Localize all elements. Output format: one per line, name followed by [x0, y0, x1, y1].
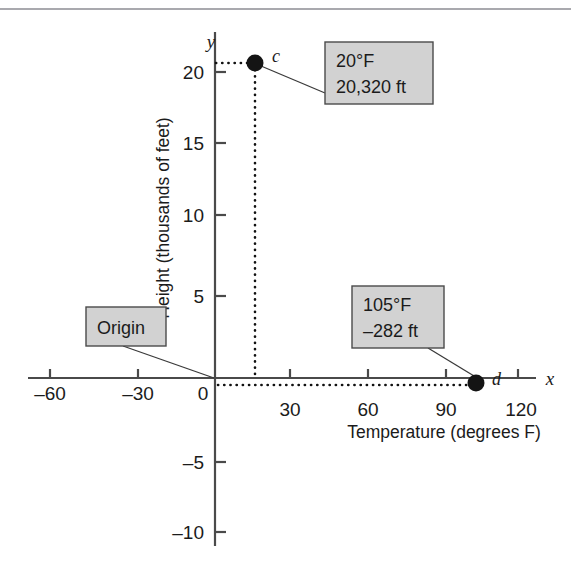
callout-d[interactable]: 105°F –282 ft [352, 286, 444, 348]
y-axis-letter: y [205, 31, 216, 52]
y-tick-label-neg10: –10 [172, 522, 204, 543]
callout-d-line1: 105°F [363, 295, 411, 315]
callout-origin-label: Origin [97, 318, 145, 338]
y-tick-label-5: 5 [193, 286, 204, 307]
callout-d-line2: –282 ft [363, 321, 418, 341]
leader-line-callout-c [261, 66, 325, 93]
x-tick-label-90: 90 [435, 399, 456, 420]
x-tick-label-neg30: –30 [122, 383, 154, 404]
data-point-d-label: d [492, 369, 502, 389]
callout-c-line2: 20,320 ft [336, 77, 406, 97]
callout-c-line1: 20°F [336, 51, 374, 71]
y-tick-label-15: 15 [183, 133, 204, 154]
x-tick-label-neg60: –60 [34, 383, 66, 404]
x-tick-label-120: 120 [505, 399, 537, 420]
leader-line-callout-origin [123, 346, 214, 378]
y-tick-label-neg5: –5 [183, 452, 204, 473]
coordinate-plane-svg: –60 –30 0 30 60 90 120 20 15 10 5 –5 –10… [0, 0, 571, 562]
x-tick-label-60: 60 [357, 399, 378, 420]
y-tick-label-20: 20 [183, 62, 204, 83]
callout-origin[interactable]: Origin [86, 307, 166, 346]
data-point-c-label: c [272, 46, 280, 66]
data-point-d[interactable] [468, 375, 485, 392]
chart-figure: –60 –30 0 30 60 90 120 20 15 10 5 –5 –10… [0, 0, 571, 562]
x-axis-letter: x [545, 368, 555, 389]
x-axis-title: Temperature (degrees F) [347, 422, 541, 442]
x-tick-label-zero: 0 [198, 383, 209, 404]
y-tick-label-10: 10 [183, 205, 204, 226]
x-tick-label-30: 30 [279, 399, 300, 420]
y-axis-title: Height (thousands of feet) [153, 117, 173, 318]
leader-line-callout-d [428, 348, 479, 379]
callout-c[interactable]: 20°F 20,320 ft [325, 42, 433, 104]
data-point-c[interactable] [247, 55, 264, 72]
